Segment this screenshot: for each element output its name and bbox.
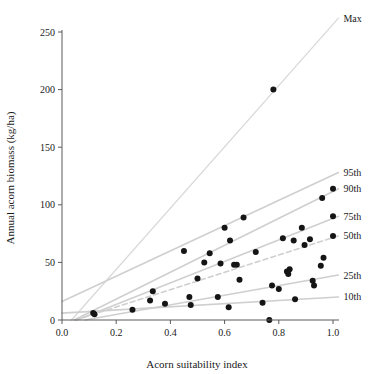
series-label-max: Max [343, 13, 361, 24]
data-point [150, 288, 156, 294]
data-point [253, 249, 259, 255]
data-point [222, 225, 228, 231]
data-point [129, 307, 135, 313]
quantile-line-max [71, 18, 338, 320]
data-point [276, 286, 282, 292]
y-tick-label: 50 [45, 257, 55, 268]
data-point [186, 294, 192, 300]
data-point [92, 311, 98, 317]
y-tick-label: 200 [40, 84, 55, 95]
data-point [330, 213, 336, 219]
x-tick-label: 0.8 [273, 327, 286, 338]
data-point [234, 262, 240, 268]
x-tick-label: 0.2 [110, 327, 123, 338]
x-tick-label: 0.0 [56, 327, 69, 338]
series-label-90th: 90th [343, 183, 361, 194]
data-point [201, 259, 207, 265]
data-point [218, 261, 224, 267]
series-label-75th: 75th [343, 211, 361, 222]
quantile-regression-lines [62, 18, 338, 320]
data-point [291, 238, 297, 244]
acorn-biomass-scatter-figure: 050100150200250 0.00.20.40.60.81.0 Max95… [0, 0, 374, 374]
data-point [215, 294, 221, 300]
data-point [311, 282, 317, 288]
y-tick-label: 0 [50, 315, 55, 326]
x-axis-ticks: 0.00.20.40.60.81.0 [56, 320, 340, 338]
data-point [227, 238, 233, 244]
quantile-line-50th [76, 236, 339, 320]
data-point [302, 242, 308, 248]
data-point [280, 235, 286, 241]
x-tick-label: 1.0 [327, 327, 340, 338]
series-label-95th: 95th [343, 167, 361, 178]
data-point [330, 186, 336, 192]
data-point [321, 255, 327, 261]
data-point [195, 276, 201, 282]
series-label-10th: 10th [343, 291, 361, 302]
data-point [147, 297, 153, 303]
data-point [207, 250, 213, 256]
data-point [287, 266, 293, 272]
data-point [188, 302, 194, 308]
data-point [226, 304, 232, 310]
y-tick-label: 150 [40, 142, 55, 153]
x-tick-label: 0.4 [164, 327, 177, 338]
data-point [270, 87, 276, 93]
data-point [307, 236, 313, 242]
quantile-line-25th [85, 275, 338, 320]
y-tick-label: 100 [40, 199, 55, 210]
data-point [319, 195, 325, 201]
data-point [330, 233, 336, 239]
quantile-line-90th [74, 189, 338, 320]
y-axis-ticks: 050100150200250 [40, 27, 62, 326]
data-point [269, 282, 275, 288]
plot-canvas: 050100150200250 0.00.20.40.60.81.0 Max95… [0, 0, 374, 374]
data-point [241, 214, 247, 220]
series-labels-group: Max95th90th75th50th25th10th [343, 13, 361, 303]
data-point [237, 277, 243, 283]
y-axis-title: Annual acorn biomass (kg/ha) [4, 111, 17, 244]
x-axis-title: Acorn suitability index [146, 358, 248, 370]
data-point [260, 300, 266, 306]
scatter-points-group [90, 87, 336, 323]
series-label-50th: 50th [343, 230, 361, 241]
y-tick-label: 250 [40, 27, 55, 38]
series-label-25th: 25th [343, 270, 361, 281]
data-point [162, 301, 168, 307]
data-point [318, 263, 324, 269]
data-point [299, 225, 305, 231]
data-point [292, 296, 298, 302]
x-tick-label: 0.6 [218, 327, 231, 338]
data-point [181, 248, 187, 254]
